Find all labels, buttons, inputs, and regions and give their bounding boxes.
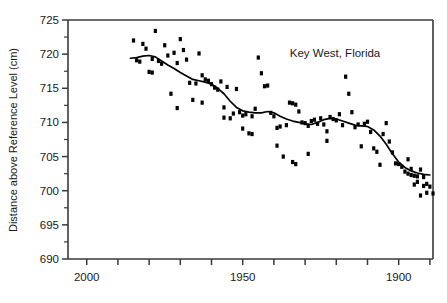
- data-point: [394, 161, 397, 165]
- data-point: [260, 71, 263, 75]
- data-point: [425, 182, 428, 186]
- data-point: [369, 130, 372, 134]
- y-tick-label: 720: [40, 48, 59, 60]
- data-point: [185, 58, 188, 62]
- data-point: [169, 92, 172, 96]
- y-axis-title-label: Distance above Reference Level (cm): [7, 48, 19, 232]
- y-tick-label: 700: [40, 185, 59, 197]
- data-point: [385, 121, 388, 125]
- data-point: [360, 144, 363, 148]
- data-point: [172, 51, 175, 55]
- data-point: [422, 184, 425, 188]
- data-point: [288, 101, 291, 105]
- data-point: [135, 58, 138, 62]
- data-point: [406, 157, 409, 161]
- data-point: [410, 173, 413, 177]
- data-point: [254, 107, 257, 111]
- data-point: [406, 172, 409, 176]
- annotation-label: Key West, Florida: [290, 47, 381, 59]
- y-axis-title: Distance above Reference Level (cm): [7, 48, 19, 232]
- data-point: [266, 83, 269, 87]
- data-point: [222, 105, 225, 109]
- data-point: [322, 122, 325, 126]
- data-point: [151, 57, 154, 61]
- data-point: [176, 106, 179, 110]
- y-tick-label: 710: [40, 116, 59, 128]
- data-point: [144, 47, 147, 51]
- data-point: [431, 191, 434, 195]
- plot-annotation: Key West, Florida: [290, 47, 381, 59]
- data-point: [307, 152, 310, 156]
- data-point: [350, 110, 353, 114]
- data-point: [388, 139, 391, 143]
- y-tick-label: 705: [40, 151, 59, 163]
- data-point: [226, 85, 229, 89]
- y-tick-label: 695: [40, 219, 59, 231]
- x-tick-label: 1950: [230, 271, 256, 283]
- data-point: [219, 79, 222, 83]
- data-point: [422, 175, 425, 179]
- data-point: [272, 114, 275, 118]
- y-tick-label: 725: [40, 14, 59, 26]
- data-point: [297, 109, 300, 113]
- data-point: [241, 126, 244, 130]
- data-point: [163, 43, 166, 47]
- data-point: [344, 75, 347, 79]
- data-point: [154, 29, 157, 33]
- data-point: [338, 112, 341, 116]
- data-point: [291, 101, 294, 105]
- y-axis-ticks: 690695700705710715720725: [40, 14, 68, 265]
- data-point: [244, 112, 247, 116]
- x-axis-ticks: 200019501900: [74, 259, 430, 283]
- data-point: [176, 61, 179, 65]
- data-point: [291, 160, 294, 164]
- data-point: [275, 144, 278, 148]
- data-point: [263, 84, 266, 88]
- data-point: [294, 103, 297, 107]
- data-point: [381, 132, 384, 136]
- data-point: [250, 114, 253, 118]
- data-point: [325, 129, 328, 133]
- data-point: [413, 182, 416, 186]
- data-point: [235, 87, 238, 91]
- data-point: [279, 124, 282, 128]
- data-point: [191, 98, 194, 102]
- data-point: [347, 92, 350, 96]
- data-point: [285, 123, 288, 127]
- data-point: [201, 101, 204, 105]
- data-point: [204, 77, 207, 81]
- data-point: [313, 118, 316, 122]
- data-point: [341, 123, 344, 127]
- data-point: [138, 60, 141, 64]
- data-point: [132, 38, 135, 42]
- data-point: [375, 150, 378, 154]
- data-point: [372, 146, 375, 150]
- data-point: [310, 119, 313, 123]
- chart-container: Distance above Reference Level (cm) 6906…: [0, 0, 447, 303]
- data-point: [201, 73, 204, 77]
- data-point: [188, 81, 191, 85]
- x-tick-label: 2000: [74, 271, 100, 283]
- data-point: [378, 163, 381, 167]
- data-point: [425, 191, 428, 195]
- data-point: [416, 180, 419, 184]
- data-point: [182, 48, 185, 52]
- data-point: [403, 169, 406, 173]
- data-point: [250, 132, 253, 136]
- data-point: [179, 37, 182, 41]
- data-point: [257, 55, 260, 59]
- data-point: [419, 193, 422, 197]
- trend-line-path: [130, 56, 429, 176]
- data-point: [366, 120, 369, 124]
- data-point: [229, 116, 232, 120]
- data-point: [275, 126, 278, 130]
- y-tick-label: 715: [40, 82, 59, 94]
- data-point: [413, 174, 416, 178]
- data-point: [419, 167, 422, 171]
- trend-line: [130, 56, 429, 176]
- data-point: [166, 53, 169, 57]
- x-tick-label: 1900: [386, 271, 412, 283]
- data-point: [194, 81, 197, 85]
- data-point: [247, 131, 250, 135]
- data-point: [294, 162, 297, 166]
